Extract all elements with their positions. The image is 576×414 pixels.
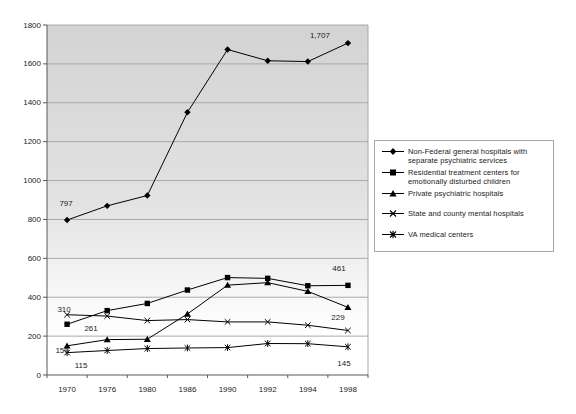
legend-label: Private psychiatric hospitals xyxy=(408,189,503,198)
diamond-marker-icon xyxy=(381,147,405,156)
legend-label: Residential treatment centers for emotio… xyxy=(408,168,549,186)
y-tick-label: 1800 xyxy=(23,21,41,30)
y-tick-label: 200 xyxy=(28,332,42,341)
data-label: 310 xyxy=(57,305,71,314)
x-tick-label: 1980 xyxy=(138,385,156,394)
data-label: 145 xyxy=(337,359,351,368)
x-tick-label: 1998 xyxy=(339,385,357,394)
x-tick-label: 1986 xyxy=(179,385,197,394)
legend-item: State and county mental hospitals xyxy=(381,209,549,230)
legend-item: Residential treatment centers for emotio… xyxy=(381,168,549,189)
legend-item: Private psychiatric hospitals xyxy=(381,189,549,210)
x-axis-labels: 19701976198019861990199219941998 xyxy=(58,385,357,394)
legend: Non-Federal general hospitals with separ… xyxy=(374,140,554,252)
data-label: 261 xyxy=(84,324,98,333)
legend-item: VA medical centers xyxy=(381,230,549,251)
y-tick-label: 600 xyxy=(28,254,42,263)
legend-label: VA medical centers xyxy=(408,230,473,239)
chart-canvas: 0200400600800100012001400160018001970197… xyxy=(0,0,576,414)
data-label: 229 xyxy=(331,313,345,322)
square-marker-icon xyxy=(381,168,405,177)
plot-area xyxy=(47,25,368,375)
x-tick-label: 1976 xyxy=(98,385,116,394)
y-tick-label: 1200 xyxy=(23,137,41,146)
legend-label: Non-Federal general hospitals with separ… xyxy=(408,147,549,165)
y-axis-labels: 020040060080010001200140016001800 xyxy=(23,21,41,380)
data-label: 150 xyxy=(55,346,69,355)
y-tick-label: 1000 xyxy=(23,176,41,185)
star-marker-icon xyxy=(381,230,405,239)
y-tick-label: 0 xyxy=(37,371,42,380)
x-tick-label: 1990 xyxy=(219,385,237,394)
x-tick-label: 1970 xyxy=(58,385,76,394)
y-tick-label: 800 xyxy=(28,215,42,224)
triangle-marker-icon xyxy=(381,189,405,198)
data-label: 1,707 xyxy=(310,31,331,40)
x-marker-icon xyxy=(381,209,405,218)
y-tick-label: 1600 xyxy=(23,59,41,68)
x-tick-label: 1992 xyxy=(259,385,277,394)
y-tick-label: 400 xyxy=(28,293,42,302)
y-tick-label: 1400 xyxy=(23,98,41,107)
data-label: 115 xyxy=(75,361,88,370)
legend-item: Non-Federal general hospitals with separ… xyxy=(381,147,549,168)
legend-label: State and county mental hospitals xyxy=(408,209,524,218)
x-tick-label: 1994 xyxy=(299,385,317,394)
data-label: 797 xyxy=(59,199,73,208)
data-label: 461 xyxy=(332,264,346,273)
